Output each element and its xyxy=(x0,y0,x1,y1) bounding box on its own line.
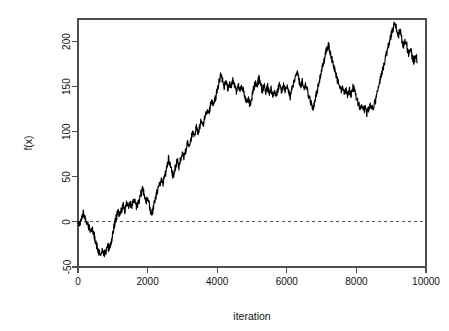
y-tick-label: 50 xyxy=(62,171,73,183)
trace-plot-svg: -50050100150200 0200040006000800010000 i… xyxy=(0,0,449,331)
x-tick-label: 6000 xyxy=(276,276,299,287)
y-tick-label: -50 xyxy=(62,259,73,274)
x-axis-title: iteration xyxy=(233,310,271,322)
x-tick-label: 2000 xyxy=(136,276,159,287)
x-tick-label: 0 xyxy=(75,276,81,287)
x-tick-label: 8000 xyxy=(345,276,368,287)
y-tick-label: 0 xyxy=(62,219,73,225)
y-tick-label: 150 xyxy=(62,78,73,95)
y-tick-label: 100 xyxy=(62,123,73,140)
y-tick-label: 200 xyxy=(62,33,73,50)
x-tick-label: 4000 xyxy=(206,276,229,287)
y-axis-title: f(x) xyxy=(22,135,34,150)
trace-plot-figure: -50050100150200 0200040006000800010000 i… xyxy=(0,0,449,331)
x-tick-label: 10000 xyxy=(412,276,440,287)
